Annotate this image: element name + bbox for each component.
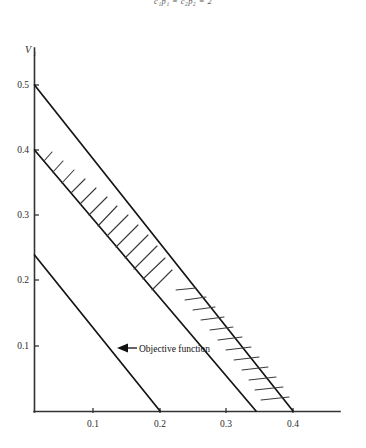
x-ticklabel-1: 0.1	[87, 419, 99, 429]
y-ticklabel-1: 0.1	[17, 341, 29, 351]
hatching-upper-segment	[44, 152, 172, 290]
y-axis-label-group: V 1	[25, 44, 36, 57]
figure-container: c₁p₁ = c₂p₂ = 2 0.5 0.4 0.3	[0, 0, 366, 448]
y-axis-label: V	[25, 44, 33, 55]
objective-function-arrow-head-icon	[117, 344, 128, 353]
constraint-line-2-objective	[35, 150, 257, 411]
objective-function-annotation: Objective function	[117, 344, 210, 354]
axes-group	[34, 48, 340, 412]
y-axis-tick-labels: 0.5 0.4 0.3 0.2 0.1	[17, 80, 29, 351]
objective-function-label: Objective function	[139, 344, 210, 354]
x-ticklabel-2: 0.2	[154, 419, 166, 429]
x-ticklabel-3: 0.3	[220, 419, 232, 429]
x-ticklabel-4: 0.4	[287, 419, 299, 429]
y-ticklabel-5: 0.5	[17, 80, 29, 90]
x-axis-tick-labels: 0.1 0.2 0.3 0.4	[87, 419, 299, 429]
y-ticklabel-2: 0.2	[17, 275, 29, 285]
y-axis-label-subscript: 1	[33, 50, 36, 57]
constraint-line-3	[35, 255, 161, 411]
y-ticklabel-3: 0.3	[17, 210, 29, 220]
y-ticklabel-4: 0.4	[17, 145, 29, 155]
plot-svg: 0.5 0.4 0.3 0.2 0.1 0.1 0.2 0.3 0.4 V 1	[0, 0, 366, 448]
constraint-line-1	[35, 85, 294, 411]
